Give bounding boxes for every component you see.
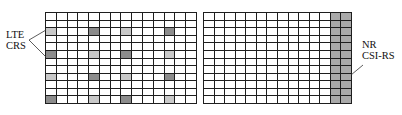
resource-element	[320, 43, 330, 50]
nr-csi-rs-cell	[331, 74, 341, 81]
resource-element	[68, 36, 78, 43]
resource-element	[204, 51, 214, 58]
resource-element	[89, 89, 99, 96]
nr-csi-rs-cell	[341, 13, 351, 20]
resource-element	[68, 81, 78, 88]
resource-element	[100, 59, 110, 66]
nr-csi-rs-cell	[331, 21, 341, 28]
resource-element	[121, 43, 131, 50]
resource-element	[320, 89, 330, 96]
resource-element	[299, 43, 309, 50]
resource-element	[289, 74, 299, 81]
resource-element	[143, 43, 153, 50]
resource-element	[100, 21, 110, 28]
lte-crs-label-line1: LTE	[6, 29, 26, 40]
resource-element	[204, 59, 214, 66]
resource-element	[100, 13, 110, 20]
resource-element	[154, 13, 164, 20]
resource-element	[46, 59, 56, 66]
resource-element	[132, 81, 142, 88]
resource-element	[46, 89, 56, 96]
resource-element	[320, 59, 330, 66]
resource-element	[278, 36, 288, 43]
lte-crs-cell	[89, 96, 99, 103]
resource-element	[310, 28, 320, 35]
resource-element	[57, 66, 67, 73]
resource-element	[236, 13, 246, 20]
resource-element	[299, 74, 309, 81]
resource-element	[215, 66, 225, 73]
resource-element	[165, 13, 175, 20]
resource-element	[186, 36, 196, 43]
resource-element	[100, 51, 110, 58]
nr-csi-rs-cell	[341, 51, 351, 58]
resource-element	[310, 36, 320, 43]
resource-element	[289, 28, 299, 35]
resource-element	[215, 89, 225, 96]
resource-element	[320, 81, 330, 88]
resource-element	[175, 59, 185, 66]
resource-element	[78, 36, 88, 43]
resource-element	[154, 51, 164, 58]
resource-element	[246, 74, 256, 81]
resource-element	[111, 21, 121, 28]
resource-element	[225, 89, 235, 96]
resource-element	[225, 74, 235, 81]
resource-element	[175, 51, 185, 58]
resource-element	[278, 51, 288, 58]
resource-element	[225, 51, 235, 58]
lte-crs-cell	[121, 74, 131, 81]
nr-csi-rs-cell	[341, 96, 351, 103]
resource-element	[225, 81, 235, 88]
resource-element	[100, 96, 110, 103]
resource-element	[175, 43, 185, 50]
resource-element	[310, 96, 320, 103]
resource-element	[289, 81, 299, 88]
resource-element	[132, 89, 142, 96]
resource-element	[236, 74, 246, 81]
resource-element	[89, 81, 99, 88]
resource-element	[289, 89, 299, 96]
resource-element	[299, 66, 309, 73]
resource-element	[165, 43, 175, 50]
resource-element	[186, 43, 196, 50]
lte-crs-cell	[89, 28, 99, 35]
resource-element	[299, 36, 309, 43]
nr-csi-rs-cell	[341, 81, 351, 88]
resource-element	[175, 21, 185, 28]
resource-element	[299, 13, 309, 20]
resource-element	[143, 13, 153, 20]
resource-element	[154, 66, 164, 73]
resource-element	[215, 81, 225, 88]
resource-element	[68, 21, 78, 28]
resource-element	[186, 28, 196, 35]
resource-element	[68, 89, 78, 96]
resource-element	[154, 81, 164, 88]
resource-element	[246, 43, 256, 50]
nr-csi-rs-cell	[341, 28, 351, 35]
resource-element	[68, 96, 78, 103]
resource-element	[121, 81, 131, 88]
resource-element	[78, 59, 88, 66]
resource-element	[225, 13, 235, 20]
resource-element	[257, 36, 267, 43]
resource-element	[100, 66, 110, 73]
resource-element	[257, 96, 267, 103]
resource-element	[111, 13, 121, 20]
resource-element	[78, 13, 88, 20]
resource-element	[186, 21, 196, 28]
resource-element	[257, 21, 267, 28]
resource-element	[111, 43, 121, 50]
resource-element	[132, 21, 142, 28]
resource-element	[278, 81, 288, 88]
resource-element	[57, 43, 67, 50]
resource-element	[132, 36, 142, 43]
resource-element	[267, 89, 277, 96]
resource-element	[215, 21, 225, 28]
nr-csi-rs-cell	[341, 74, 351, 81]
resource-element	[165, 89, 175, 96]
resource-element	[225, 36, 235, 43]
resource-element	[246, 89, 256, 96]
resource-element	[267, 59, 277, 66]
nr-csi-rs-cell	[341, 89, 351, 96]
